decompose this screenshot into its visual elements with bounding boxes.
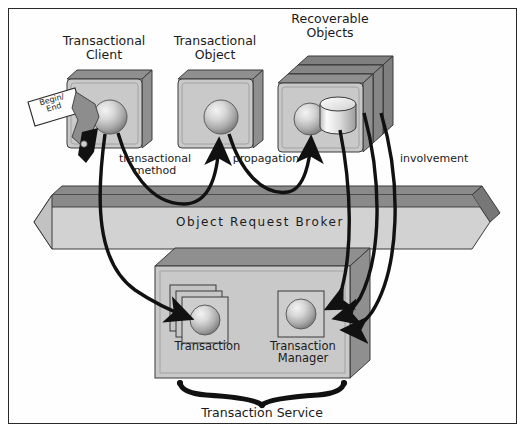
database-cylinder-icon xyxy=(320,97,356,134)
label-recoverable-objects: Recoverable Objects xyxy=(270,12,390,39)
label-object-request-broker: Object Request Broker xyxy=(160,216,360,229)
node-recoverable-objects[interactable] xyxy=(278,56,393,152)
label-transactional-client: Transactional Client xyxy=(44,34,164,61)
node-transactional-object[interactable] xyxy=(178,70,263,148)
brace-transaction-service xyxy=(177,380,347,408)
label-transaction: Transaction xyxy=(160,340,255,352)
manager-sphere-icon xyxy=(286,299,316,329)
label-involvement: involvement xyxy=(400,153,500,165)
object-sphere-icon xyxy=(204,100,238,134)
diagram-page: Transactional Client Transactional Objec… xyxy=(0,0,526,439)
transaction-sphere-icon xyxy=(190,305,220,335)
node-transaction-manager[interactable] xyxy=(278,291,324,337)
label-transaction-service: Transaction Service xyxy=(182,406,342,420)
label-transactional-object: Transactional Object xyxy=(155,34,275,61)
label-transactional-method: transactional method xyxy=(101,153,209,177)
label-transaction-manager: Transaction Manager xyxy=(258,340,348,365)
label-propagation: propagation xyxy=(216,153,316,165)
